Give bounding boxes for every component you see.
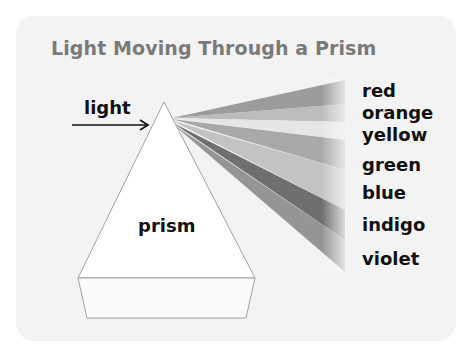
color-label-violet: violet xyxy=(362,249,419,269)
color-label-indigo: indigo xyxy=(362,215,425,235)
light-arrow-icon xyxy=(72,120,148,130)
color-label-blue: blue xyxy=(362,183,406,203)
color-label-green: green xyxy=(362,155,421,175)
color-label-yellow: yellow xyxy=(362,125,427,145)
light-label: light xyxy=(84,97,131,118)
prism-diagram xyxy=(0,0,471,353)
prism-label: prism xyxy=(138,215,195,236)
color-label-orange: orange xyxy=(362,103,433,123)
color-label-red: red xyxy=(362,81,396,101)
